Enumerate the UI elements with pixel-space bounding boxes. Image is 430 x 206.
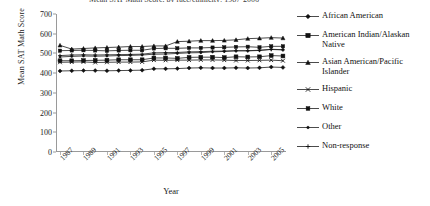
series-marker (222, 66, 226, 70)
series-marker (94, 49, 97, 52)
legend-marker-icon (296, 30, 322, 41)
legend-marker-icon (296, 122, 322, 133)
legend-item-0[interactable]: African American (296, 10, 428, 22)
chart-figure: Mean SAT Math Score, by race/ethnicity: … (0, 0, 430, 206)
series-marker (258, 55, 262, 59)
legend-label: Non-response (322, 140, 369, 150)
series-marker (175, 67, 179, 71)
series-marker (140, 68, 144, 72)
series-marker (234, 55, 238, 59)
series-marker (105, 49, 108, 52)
y-axis-label: Mean SAT Math Score (17, 0, 26, 102)
legend-label: White (322, 102, 343, 112)
chart-legend: African AmericanAmerican Indian/Alaskan … (296, 10, 428, 159)
series-marker (140, 52, 144, 56)
legend-marker-icon (296, 84, 322, 95)
series-marker (58, 49, 61, 52)
series-marker (58, 69, 62, 73)
legend-item-2[interactable]: Asian American/Pacific Islander (296, 56, 428, 76)
series-marker (164, 47, 167, 50)
legend-marker-icon (296, 103, 322, 114)
series-marker (176, 47, 179, 50)
plot-area: 0100200300400500600700 19871989199119931… (56, 14, 286, 152)
series-marker (82, 49, 85, 52)
series-marker (70, 49, 73, 52)
series-layer (56, 14, 286, 152)
series-marker (152, 47, 155, 50)
series-marker (187, 66, 191, 70)
series-marker (257, 66, 261, 70)
series-marker (211, 66, 215, 70)
legend-item-4[interactable]: White (296, 102, 428, 114)
legend-label: Hispanic (322, 83, 352, 93)
series-marker (152, 67, 156, 71)
series-marker (199, 66, 203, 70)
legend-item-6[interactable]: Non-response (296, 140, 428, 152)
series-marker (211, 49, 215, 53)
series-marker (246, 55, 250, 59)
legend-label: Asian American/Pacific Islander (322, 56, 428, 76)
legend-label: African American (322, 10, 383, 20)
series-marker (211, 46, 214, 49)
series-marker (281, 48, 285, 52)
legend-label: Other (322, 121, 341, 131)
legend-marker-icon (296, 141, 322, 152)
series-3 (58, 58, 285, 64)
legend-item-1[interactable]: American Indian/Alaskan Native (296, 29, 428, 49)
series-marker (223, 46, 226, 49)
legend-marker-icon (296, 11, 322, 22)
series-marker (117, 69, 121, 73)
series-marker (246, 49, 250, 53)
series-marker (281, 65, 285, 69)
legend-item-3[interactable]: Hispanic (296, 83, 428, 95)
series-marker (281, 45, 284, 48)
series-marker (270, 45, 273, 48)
series-marker (246, 66, 250, 70)
series-marker (222, 49, 226, 53)
series-marker (70, 69, 74, 73)
series-0 (58, 65, 285, 73)
series-marker (93, 69, 97, 73)
series-marker (234, 66, 238, 70)
series-marker (128, 68, 132, 72)
series-marker (234, 49, 238, 53)
series-marker (58, 43, 62, 47)
series-marker (187, 46, 190, 49)
legend-marker-icon (296, 57, 322, 68)
series-marker (141, 49, 144, 52)
series-marker (269, 54, 273, 58)
series-marker (269, 65, 273, 69)
series-marker (246, 45, 249, 48)
series-marker (129, 49, 132, 52)
series-marker (199, 46, 202, 49)
series-marker (281, 54, 285, 58)
series-marker (105, 69, 109, 73)
series-marker (81, 69, 85, 73)
legend-item-5[interactable]: Other (296, 121, 428, 133)
x-axis-label: Year (56, 186, 286, 196)
legend-label: American Indian/Alaskan Native (322, 29, 428, 49)
series-marker (234, 45, 237, 48)
chart-title: Mean SAT Math Score, by race/ethnicity: … (54, 0, 294, 2)
series-marker (117, 49, 120, 52)
series-marker (164, 67, 168, 71)
series-4 (58, 45, 284, 53)
